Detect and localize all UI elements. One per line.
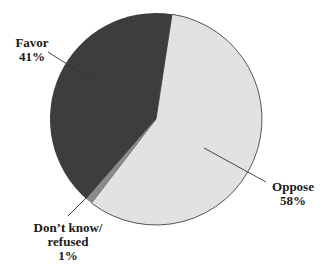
label-dontknow-pct: 1% [22, 249, 114, 263]
pie-slices [50, 13, 262, 225]
leader-line-dontknow [68, 196, 88, 216]
label-dontknow: Don’t know/ refused 1% [22, 221, 114, 263]
label-oppose-name: Oppose [263, 180, 323, 194]
label-dontknow-line1: Don’t know/ [22, 221, 114, 235]
label-favor-pct: 41% [12, 50, 52, 64]
label-oppose-pct: 58% [263, 194, 323, 208]
label-dontknow-line2: refused [22, 235, 114, 249]
label-favor-name: Favor [12, 36, 52, 50]
label-oppose: Oppose 58% [263, 180, 323, 208]
label-favor: Favor 41% [12, 36, 52, 64]
